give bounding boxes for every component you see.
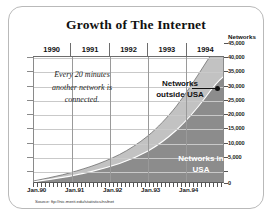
gridline [34, 144, 223, 145]
y-tick-label: 25,000 [228, 97, 245, 103]
year-header-band: 1990 1991 1992 1993 1994 [33, 43, 224, 57]
y-tick-label: 10,000 [228, 140, 245, 146]
annotation-note: Every 20 minutes another network is conn… [43, 69, 121, 107]
y-tick-label: 0 [228, 180, 231, 186]
annotation-outside-usa: Networks outside USA [151, 79, 209, 100]
left-tick [27, 143, 33, 144]
year-header-cell: 1993 [148, 43, 186, 56]
x-tick-label: Jan.93 [141, 186, 160, 193]
y-axis-title: Networks [228, 33, 256, 40]
x-tick-label: Jan.90 [27, 186, 46, 193]
gridline [34, 58, 223, 59]
year-header-cell: 1992 [110, 43, 148, 56]
left-tick [27, 171, 33, 172]
gridline [34, 115, 223, 116]
gridline [34, 129, 223, 130]
left-tick [27, 100, 33, 101]
left-tick [27, 71, 33, 72]
y-tick-label: 5,000 [228, 154, 242, 160]
left-tick [27, 157, 33, 158]
chart-card: Growth of The Internet Networks 1990 199… [8, 6, 264, 209]
x-tick-label: Jan.92 [103, 186, 122, 193]
leader-dot [215, 86, 220, 91]
y-tick-label: 20,000 [228, 111, 245, 117]
year-divider [72, 44, 73, 182]
year-divider [148, 44, 149, 182]
year-divider [110, 44, 111, 182]
y-tick-label: 35,000 [228, 68, 245, 74]
y-tick-label: 30,000 [228, 83, 245, 89]
year-header-cell: 1994 [187, 43, 224, 56]
left-tick [27, 57, 33, 58]
year-header-cell: 1991 [71, 43, 109, 56]
left-tick [27, 114, 33, 115]
left-tick [27, 128, 33, 129]
y-tick-label: 15,000 [228, 125, 245, 131]
x-tick-label: Jan.91 [65, 186, 84, 193]
source-note: Source: ftp://nic.merit.edu/statistics/n… [35, 199, 114, 204]
year-header-cell: 1990 [33, 43, 71, 56]
page-title: Growth of The Internet [9, 17, 263, 33]
y-tick-label: 40,000 [228, 54, 245, 60]
left-tick [27, 86, 33, 87]
y-tick-label: 45,000 [228, 40, 245, 46]
x-tick-label: Jan.94 [179, 186, 198, 193]
annotation-in-usa: Networks in USA [175, 153, 227, 175]
